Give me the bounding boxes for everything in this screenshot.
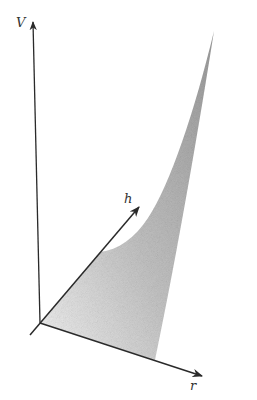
h-axis-label: h xyxy=(124,191,132,206)
v-axis-label: V xyxy=(16,15,27,30)
diagram-canvas: V h r xyxy=(0,0,257,400)
r-axis-label: r xyxy=(190,378,197,393)
v-axis xyxy=(33,22,40,323)
